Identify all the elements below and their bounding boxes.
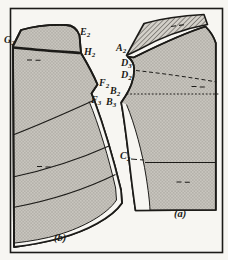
pattern-draft-figure: G2 E2 H2 F2 F3 A2 D3 D2 B2 B3 C2 (b) (a) bbox=[0, 0, 228, 260]
point-label-e2: E2 bbox=[80, 27, 90, 40]
point-label-c2: C2 bbox=[120, 151, 130, 164]
point-label-h2: H2 bbox=[84, 47, 95, 60]
point-label-d2: D2 bbox=[121, 70, 132, 83]
point-label-f2: F2 bbox=[99, 78, 109, 91]
point-label-a2: A2 bbox=[116, 43, 126, 56]
point-label-b3: B3 bbox=[106, 97, 116, 110]
caption-piece-b: (b) bbox=[54, 232, 66, 243]
pattern-diagram-canvas bbox=[0, 0, 228, 260]
point-label-f3: F3 bbox=[91, 95, 101, 108]
point-label-g2: G2 bbox=[4, 35, 15, 48]
caption-piece-a: (a) bbox=[174, 208, 186, 219]
